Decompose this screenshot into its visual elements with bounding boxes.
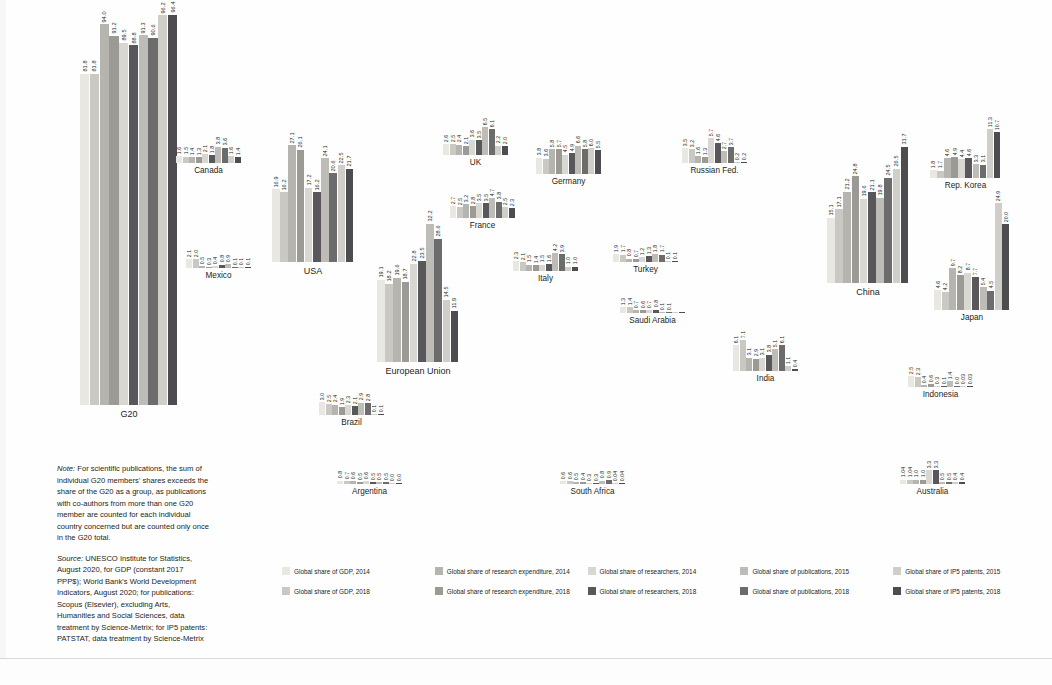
bar-value-label: 21.1 <box>869 179 875 190</box>
bar-cluster-usa: 16.916.227.126.117.216.224.120.622.521.7… <box>272 145 354 262</box>
bar-gdp-2018 <box>835 209 843 283</box>
bar-value-label: 19.1 <box>378 267 384 278</box>
bar-item: 2.4 <box>332 402 338 415</box>
bar-research-expenditure-2018 <box>533 265 539 271</box>
bar-publications-2018 <box>559 254 565 271</box>
bar-value-label: 0.04 <box>619 470 624 481</box>
bar-value-label: 3.6 <box>543 149 548 157</box>
legend-label: Global share of IP5 patents, 2015 <box>905 568 1000 575</box>
bar-item: 2.5 <box>502 198 508 218</box>
bar-item: 5.7 <box>708 138 714 163</box>
bar-item: 11.9 <box>451 224 459 362</box>
bar-item: 0.4 <box>952 470 958 484</box>
bar-researchers-2014 <box>410 264 418 362</box>
bar-item: 4.5 <box>562 146 568 174</box>
bar-publications-2018 <box>666 312 672 313</box>
bars-container: 1.91.70.80.71.21.31.81.70.10.1 <box>613 254 678 262</box>
bar-value-label: 1.4 <box>235 147 240 155</box>
bar-publications-2015 <box>215 147 221 163</box>
bar-value-label: 0.1 <box>245 257 250 265</box>
bar-value-label: 94.0 <box>102 11 108 22</box>
bar-value-label: 0.9 <box>606 471 611 479</box>
bar-item: 2.1 <box>352 402 358 415</box>
bar-research-expenditure-2018 <box>297 150 305 262</box>
bar-researchers-2018 <box>209 155 215 163</box>
bar-value-label: 0.6 <box>640 301 645 309</box>
bar-publications-2018 <box>489 129 495 155</box>
bar-item: 14.5 <box>443 224 451 362</box>
bars-container: 15.117.121.224.819.621.119.824.526.531.7 <box>827 147 909 283</box>
bar-value-label: 1.3 <box>621 298 626 306</box>
bar-value-label: 1.9 <box>339 397 344 405</box>
legend-label: Global share of GDP, 2014 <box>294 568 370 575</box>
cluster-name-label: Rep. Korea <box>945 181 986 190</box>
bar-researchers-2018 <box>868 192 876 283</box>
bar-value-label: 0.5 <box>940 472 945 480</box>
bar-cluster-saudi-arabia: 1.31.40.70.60.70.80.10.1Saudi Arabia <box>620 307 685 313</box>
bar-ips-patents-2018 <box>245 267 251 268</box>
bar-value-label: 0.0 <box>390 473 395 481</box>
bar-researchers-2018 <box>483 203 489 218</box>
bar-research-expenditure-2018 <box>196 157 202 163</box>
bar-gdp-2014 <box>560 481 566 484</box>
bar-value-label: 1.7 <box>620 245 625 253</box>
bar-value-label: 5.8 <box>550 140 555 148</box>
bar-cluster-rep-korea: 1.81.74.64.94.44.63.33.111.310.7Rep. Kor… <box>930 129 1001 178</box>
bar-value-label: 0.4 <box>580 473 585 481</box>
bar-ips-patents-2018 <box>396 483 402 484</box>
bar-value-label: 6.0 <box>589 139 594 147</box>
bar-value-label: 0.1 <box>941 376 946 384</box>
bar-item: 19.1 <box>377 224 385 362</box>
bar-value-label: 0.6 <box>928 375 933 383</box>
bar-research-expenditure-2014 <box>100 24 109 405</box>
legend-swatch-icon <box>435 567 443 575</box>
bar-value-label: 88.8 <box>131 32 137 43</box>
bar-item: 89.5 <box>119 15 128 405</box>
bar-value-label: 20.0 <box>1004 211 1009 222</box>
bar-item: 17.1 <box>835 147 843 283</box>
legend-item-research-expenditure-2018: Global share of research expenditure, 20… <box>435 581 584 601</box>
bar-researchers-2014 <box>345 405 351 415</box>
bar-item: 96.2 <box>158 15 167 405</box>
bar-researchers-2018 <box>129 45 138 405</box>
bar-item: 2.3 <box>345 402 351 415</box>
bar-item: 15.1 <box>827 147 835 283</box>
bar-cluster-turkey: 1.91.70.80.71.21.31.81.70.10.1Turkey <box>613 254 678 262</box>
bar-publications-2015 <box>139 35 148 405</box>
bar-value-label: 81.8 <box>92 60 98 71</box>
bar-value-label: 2.1 <box>203 144 208 152</box>
bar-gdp-2014 <box>377 280 385 362</box>
bar-item: 6.0 <box>588 146 594 174</box>
bar-ips-patents-2015 <box>612 483 618 484</box>
bar-item: 1.6 <box>546 253 552 271</box>
bar-item: 0.4 <box>212 259 218 268</box>
bar-cluster-germany: 3.83.65.85.74.54.96.65.86.05.5Germany <box>536 146 601 174</box>
bar-research-expenditure-2014 <box>526 265 532 271</box>
bar-value-label: 2.9 <box>753 349 758 357</box>
bar-value-label: 5.5 <box>595 141 600 149</box>
bar-value-label: 2.7 <box>451 197 456 205</box>
bar-value-label: 0.8 <box>653 300 658 308</box>
bar-publications-2018 <box>884 178 892 283</box>
bar-item: 2.0 <box>502 127 508 155</box>
cluster-name-label: Italy <box>538 274 553 283</box>
bar-research-expenditure-2014 <box>695 156 701 163</box>
bar-gdp-2014 <box>536 158 542 174</box>
bar-item: 2.1 <box>186 259 192 268</box>
bar-ips-patents-2018 <box>168 15 177 405</box>
bar-value-label: 0.8 <box>600 471 605 479</box>
bar-ips-patents-2015 <box>389 483 395 484</box>
bar-research-expenditure-2014 <box>189 157 195 163</box>
bars-container: 3.02.52.41.92.32.12.92.80.10.1 <box>319 402 384 415</box>
bar-value-label: 32.2 <box>427 210 433 221</box>
bar-value-label: 6.6 <box>576 136 581 144</box>
bar-item: 24.9 <box>995 203 1002 310</box>
legend-swatch-icon <box>740 567 748 575</box>
bar-value-label: 1.3 <box>702 148 707 156</box>
bar-value-label: 0.5 <box>574 472 579 480</box>
bar-item: 2.7 <box>721 138 727 163</box>
bar-value-label: 0.1 <box>666 251 671 259</box>
bar-research-expenditure-2014 <box>573 482 579 484</box>
bar-item: 4.7 <box>489 198 495 218</box>
bar-item: 2.3 <box>513 253 519 271</box>
